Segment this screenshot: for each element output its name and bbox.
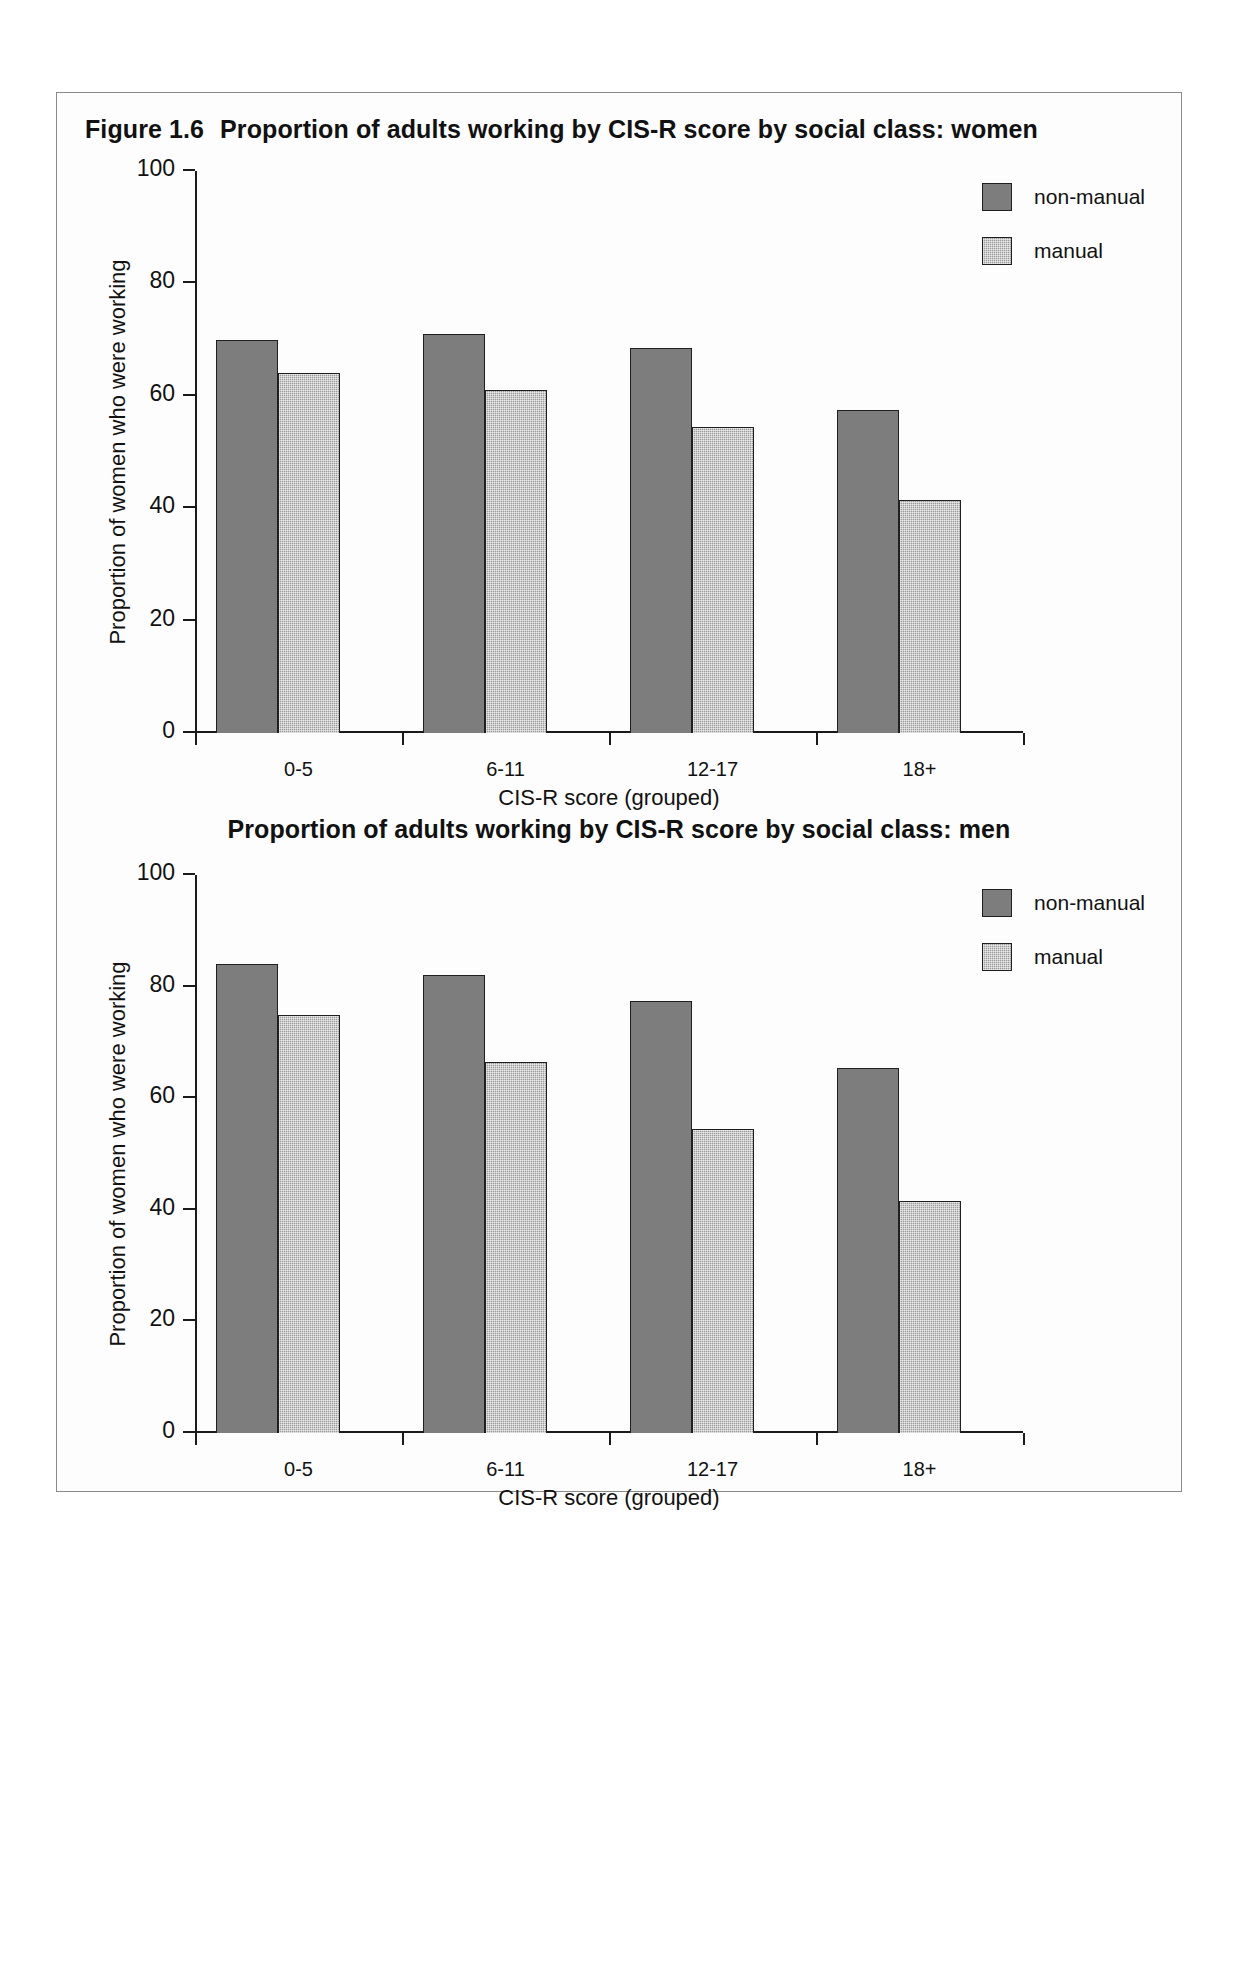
bar-non-manual-6-11 [423,334,485,733]
legend-swatch-manual [982,943,1012,971]
y-tick-label: 80 [149,267,175,294]
y-tick: 40 [183,1208,195,1210]
x-tick [402,1433,404,1445]
y-tick: 80 [183,985,195,987]
figure-women-ylabel: Proportion of women who were working [101,171,135,733]
figure-women-title-text: Proportion of adults working by CIS-R sc… [220,115,1038,143]
bar-non-manual-0-5 [216,340,278,733]
figure-women-number: Figure 1.6 [85,115,204,143]
bar-manual-12-17 [692,427,754,733]
figure-men-title-text: Proportion of adults working by CIS-R sc… [228,815,1011,843]
figure-men-ylabel: Proportion of women who were working [101,875,135,1433]
y-tick-label: 40 [149,492,175,519]
y-tick-label: 0 [162,1417,175,1444]
y-tick: 0 [183,731,195,733]
x-tick-label: 12-17 [687,758,738,781]
x-tick-label: 6-11 [486,758,525,781]
legend-label-non-manual: non-manual [1034,891,1145,915]
x-tick [609,1433,611,1445]
x-tick-label: 18+ [903,1458,937,1481]
legend-label-manual: manual [1034,945,1103,969]
bar-manual-6-11 [485,390,547,733]
y-tick: 100 [183,873,195,875]
x-tick [1023,733,1025,745]
bar-non-manual-18+ [837,1068,899,1433]
legend-item-manual: manual [982,943,1145,971]
legend-item-non-manual: non-manual [982,889,1145,917]
figure-women-title: Figure 1.6Proportion of adults working b… [85,115,1038,144]
y-tick: 100 [183,169,195,171]
y-tick-label: 100 [137,859,175,886]
y-tick: 20 [183,619,195,621]
legend-label-non-manual: non-manual [1034,185,1145,209]
bar-manual-18+ [899,1201,961,1433]
figure-women: Figure 1.6Proportion of adults working b… [57,93,1181,793]
y-tick-label: 60 [149,1082,175,1109]
bar-non-manual-18+ [837,410,899,733]
figure-frame: Figure 1.6Proportion of adults working b… [56,92,1182,1492]
y-tick-label: 20 [149,1305,175,1332]
y-tick: 60 [183,1096,195,1098]
x-tick [816,1433,818,1445]
legend-swatch-non-manual [982,183,1012,211]
bar-non-manual-0-5 [216,964,278,1433]
figure-women-axes: 020406080100 0-56-1112-1718+ [195,171,1023,733]
legend-item-manual: manual [982,237,1145,265]
x-tick-label: 12-17 [687,1458,738,1481]
x-tick [402,733,404,745]
bar-non-manual-12-17 [630,1001,692,1433]
x-tick-label: 0-5 [284,758,313,781]
bar-manual-18+ [899,500,961,733]
x-tick-label: 6-11 [486,1458,525,1481]
y-tick: 0 [183,1431,195,1433]
x-tick [195,1433,197,1445]
bar-non-manual-12-17 [630,348,692,733]
x-tick [816,733,818,745]
y-tick-label: 0 [162,717,175,744]
legend-label-manual: manual [1034,239,1103,263]
figure-women-legend: non-manualmanual [982,183,1145,265]
x-tick [195,733,197,745]
legend-item-non-manual: non-manual [982,183,1145,211]
y-tick: 20 [183,1319,195,1321]
x-tick [1023,1433,1025,1445]
y-tick-label: 60 [149,380,175,407]
y-tick-label: 100 [137,155,175,182]
x-tick-label: 18+ [903,758,937,781]
y-tick-label: 80 [149,971,175,998]
bar-manual-6-11 [485,1062,547,1433]
figure-men-axes: 020406080100 0-56-1112-1718+ [195,875,1023,1433]
y-tick-label: 40 [149,1194,175,1221]
legend-swatch-non-manual [982,889,1012,917]
bar-manual-0-5 [278,373,340,733]
y-tick: 40 [183,506,195,508]
figure-men-title: Proportion of adults working by CIS-R sc… [57,815,1181,844]
figure-men-legend: non-manualmanual [982,889,1145,971]
bar-non-manual-6-11 [423,975,485,1433]
legend-swatch-manual [982,237,1012,265]
figure-women-plot: 020406080100 0-56-1112-1718+ [195,171,1023,733]
bar-manual-0-5 [278,1015,340,1434]
x-tick [609,733,611,745]
bar-group [195,875,1023,1433]
figure-men-plot: 020406080100 0-56-1112-1718+ [195,875,1023,1433]
y-tick: 80 [183,281,195,283]
bar-manual-12-17 [692,1129,754,1433]
bar-group [195,171,1023,733]
figure-men: Proportion of adults working by CIS-R sc… [57,793,1181,1493]
figure-page: Figure 1.6Proportion of adults working b… [0,0,1238,1965]
x-tick-label: 0-5 [284,1458,313,1481]
y-tick: 60 [183,394,195,396]
y-tick-label: 20 [149,605,175,632]
figure-men-xlabel: CIS-R score (grouped) [195,1485,1023,1511]
